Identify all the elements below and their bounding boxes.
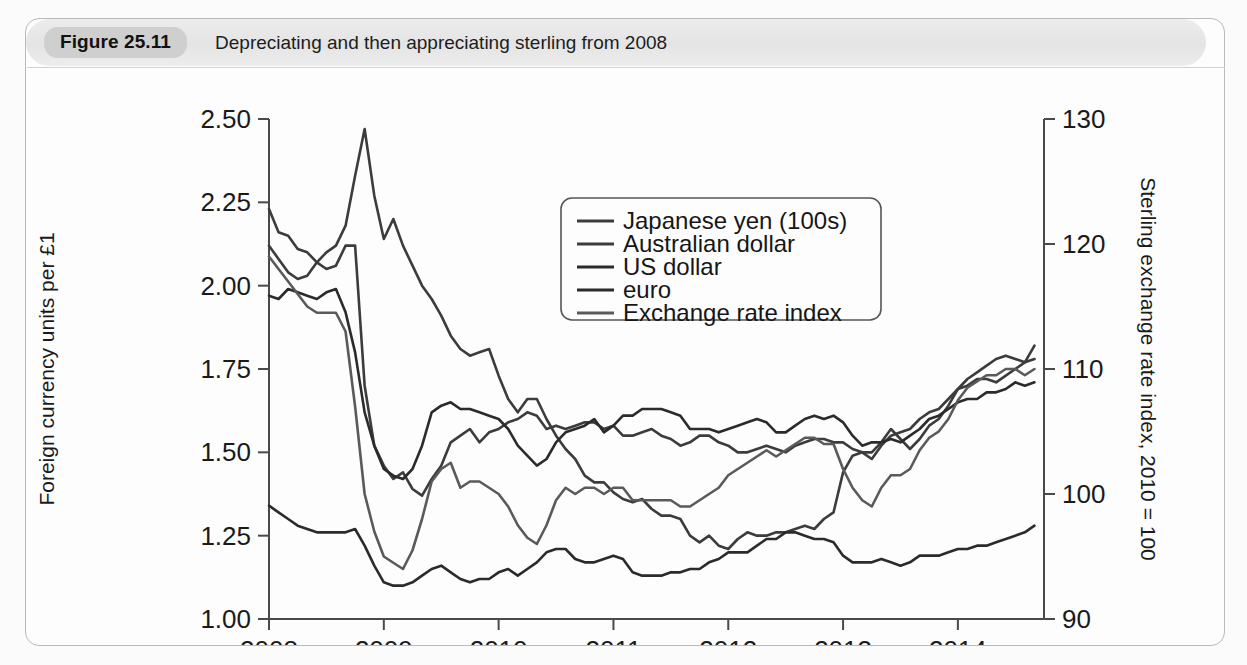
y-axis-left-tick-label: 1.25 [200,521,251,551]
x-axis-tick-label: 2010 [470,635,528,645]
y-axis-left-title: Foreign currency units per £1 [35,232,58,505]
series-line-3 [269,506,1034,586]
x-axis-tick-label: 2014 [929,635,987,645]
x-axis-tick-label: 2009 [355,635,413,645]
y-axis-left-tick-label: 2.25 [200,187,251,217]
x-axis-tick-label: 2008 [240,635,298,645]
figure-header-bar: Figure 25.11 Depreciating and then appre… [26,19,1206,66]
legend-label-4[interactable]: Exchange rate index [623,299,842,326]
y-axis-right-tick-label: 110 [1062,354,1103,384]
y-axis-left-tick-label: 1.75 [200,354,251,384]
chart-legend: Japanese yen (100s)Australian dollarUS d… [561,198,881,326]
line-chart: 1.001.251.501.752.002.252.50901001101201… [26,68,1224,645]
y-axis-left-tick-label: 2.50 [200,104,251,134]
y-axis-right-title: Sterling exchange rate index, 2010 = 100 [1137,177,1160,561]
y-axis-right-tick-label: 90 [1062,604,1091,634]
x-axis-tick-label: 2013 [814,635,872,645]
figure-frame: Figure 25.11 Depreciating and then appre… [25,18,1225,646]
y-axis-right-tick-label: 100 [1062,479,1105,509]
y-axis-right-tick-label: 120 [1062,229,1105,259]
figure-caption: Depreciating and then appreciating sterl… [215,32,667,54]
y-axis-right-tick-label: 130 [1062,104,1105,134]
y-axis-left-tick-label: 2.00 [200,271,251,301]
chart-plot-area: 1.001.251.501.752.002.252.50901001101201… [26,68,1224,645]
x-axis-tick-label: 2011 [585,635,641,645]
figure-number-badge: Figure 25.11 [44,27,187,58]
series-line-0 [269,129,1034,549]
x-axis-tick-label: 2012 [699,635,757,645]
y-axis-left-tick-label: 1.50 [200,437,251,467]
y-axis-left-tick-label: 1.00 [200,604,251,634]
